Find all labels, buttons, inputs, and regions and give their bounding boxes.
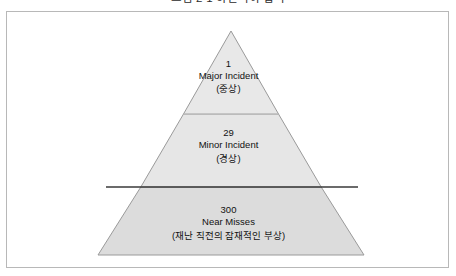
tier-minor-incident-label: Minor Incident <box>7 139 450 150</box>
tier-major-incident-label: Major Incident <box>7 70 450 81</box>
tier-near-misses-count: 300 <box>7 204 450 215</box>
tier-minor-incident-sublabel: (경상) <box>7 153 450 164</box>
tier-minor-incident-count: 29 <box>7 127 450 138</box>
tier-near-misses-label: Near Misses <box>7 216 450 227</box>
figure-caption-text: 그림 2-1 하인리히 법칙 <box>0 0 456 5</box>
figure-caption-clipped: 그림 2-1 하인리히 법칙 <box>0 0 456 7</box>
tier-major-incident-sublabel: (중상) <box>7 83 450 94</box>
tier-major-incident-count: 1 <box>7 58 450 69</box>
pyramid-tier-minor-incident <box>141 114 321 187</box>
figure-frame: 1 Major Incident (중상) 29 Minor Incident … <box>6 11 449 268</box>
tier-near-misses-sublabel: (재난 직전의 잠재적인 부상) <box>7 230 450 241</box>
pyramid-stage: 1 Major Incident (중상) 29 Minor Incident … <box>7 12 450 269</box>
